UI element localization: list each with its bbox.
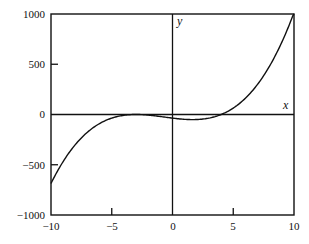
x-tick-label-5: 5 xyxy=(230,220,236,232)
y-tick-label-1000: 1000 xyxy=(23,8,46,20)
y-axis-label: y xyxy=(176,14,183,28)
y-tick-label-neg1000: −1000 xyxy=(17,209,46,221)
x-tick-label-neg5: −5 xyxy=(106,220,118,232)
cubic-function-chart: 1000 500 0 −500 −1000 −10 −5 0 5 10 y x xyxy=(0,0,309,244)
y-tick-label-500: 500 xyxy=(29,58,46,70)
x-tick-label-10: 10 xyxy=(289,220,301,232)
x-tick-label-0: 0 xyxy=(170,220,176,232)
y-tick-label-0: 0 xyxy=(40,108,46,120)
x-tick-label-neg10: −10 xyxy=(42,220,60,232)
y-tick-label-neg500: −500 xyxy=(22,159,45,171)
x-axis-label: x xyxy=(282,98,289,112)
